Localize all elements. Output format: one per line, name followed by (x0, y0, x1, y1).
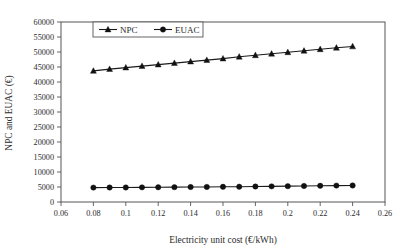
data-point-euac (107, 185, 112, 190)
data-point-euac (318, 183, 323, 188)
y-tick-label: 45000 (34, 63, 54, 72)
data-point-euac (334, 183, 339, 188)
data-point-euac (188, 184, 193, 189)
data-point-npc (350, 43, 356, 49)
legend-marker-euac (160, 27, 165, 32)
data-point-euac (123, 185, 128, 190)
chart-legend: NPCEUAC (93, 22, 203, 37)
y-axis-ticks (57, 22, 61, 202)
y-tick-label: 55000 (34, 33, 54, 42)
data-point-euac (350, 183, 355, 188)
line-chart: 0.060.080.10.120.140.160.180.20.220.240.… (0, 0, 401, 249)
y-tick-label: 25000 (34, 123, 54, 132)
y-tick-label: 10000 (34, 168, 54, 177)
x-tick-label: 0.22 (313, 209, 327, 218)
x-axis-title: Electricity unit cost (€/kWh) (169, 235, 277, 246)
x-tick-label: 0.06 (54, 209, 68, 218)
x-tick-label: 0.14 (183, 209, 197, 218)
x-axis-ticks (61, 202, 385, 206)
y-tick-label: 0 (50, 198, 54, 207)
legend-label-euac: EUAC (175, 25, 200, 35)
x-tick-label: 0.16 (216, 209, 230, 218)
data-point-euac (156, 185, 161, 190)
data-point-euac (237, 184, 242, 189)
x-tick-label: 0.18 (248, 209, 262, 218)
x-tick-label: 0.26 (378, 209, 392, 218)
y-tick-label: 35000 (34, 93, 54, 102)
data-point-euac (269, 184, 274, 189)
y-tick-label: 60000 (34, 18, 54, 27)
data-point-euac (139, 185, 144, 190)
x-tick-label: 0.24 (345, 209, 359, 218)
data-point-euac (253, 184, 258, 189)
x-tick-label: 0.1 (121, 209, 131, 218)
y-tick-label: 40000 (34, 78, 54, 87)
y-tick-label: 30000 (34, 108, 54, 117)
data-point-euac (301, 183, 306, 188)
x-tick-label: 0.12 (151, 209, 165, 218)
data-series-layer (90, 43, 355, 190)
y-tick-label: 5000 (38, 183, 54, 192)
x-tick-label: 0.08 (86, 209, 100, 218)
data-point-euac (220, 184, 225, 189)
y-tick-label: 20000 (34, 138, 54, 147)
x-tick-label: 0.2 (283, 209, 293, 218)
data-point-euac (204, 184, 209, 189)
data-point-euac (172, 184, 177, 189)
y-tick-label: 50000 (34, 48, 54, 57)
data-point-euac (91, 185, 96, 190)
y-axis-tick-labels: 0500010000150002000025000300003500040000… (34, 18, 54, 207)
y-axis-title: NPC and EUAC (€) (4, 75, 15, 150)
legend-label-npc: NPC (120, 25, 138, 35)
y-tick-label: 15000 (34, 153, 54, 162)
x-axis-tick-labels: 0.060.080.10.120.140.160.180.20.220.240.… (54, 209, 392, 218)
chart-figure: 0.060.080.10.120.140.160.180.20.220.240.… (0, 0, 401, 249)
data-point-euac (285, 183, 290, 188)
